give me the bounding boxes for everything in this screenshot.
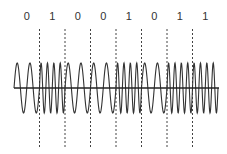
bit-label: 0: [24, 10, 30, 22]
bit-label: 1: [126, 10, 132, 22]
bit-label: 0: [100, 10, 106, 22]
bit-labels: 01001011: [24, 10, 209, 22]
bit-label: 1: [177, 10, 183, 22]
bit-label: 1: [49, 10, 55, 22]
bit-label: 0: [75, 10, 81, 22]
bit-label: 0: [151, 10, 157, 22]
bit-label: 1: [202, 10, 208, 22]
fsk-diagram: 01001011: [0, 0, 227, 154]
